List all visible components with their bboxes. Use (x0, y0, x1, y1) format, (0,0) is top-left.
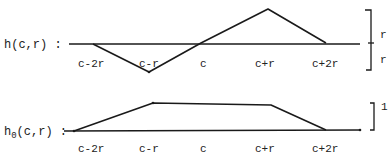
h0-tick-c: c (200, 143, 207, 155)
h0-baseline (64, 130, 360, 131)
h0-tick-c+2r: c+2r (312, 143, 338, 155)
h0-tick-c+r: c+r (255, 143, 275, 155)
diagram-canvas: h(c,r) : c-2r c-r c c+r c+2r r r h0(c,r)… (0, 0, 391, 156)
h-tick-c-r: c-r (139, 58, 159, 70)
h-tick-c+2r: c+2r (312, 58, 338, 70)
h-tick-c-2r: c-2r (78, 58, 104, 70)
h0-tick-c-r: c-r (139, 143, 159, 155)
h0-tick-c-2r: c-2r (78, 143, 104, 155)
h0-end-point (359, 129, 362, 132)
h-min-point (148, 71, 151, 74)
h0-scale-label: 1 (381, 101, 388, 113)
h0-plateau-start (152, 102, 155, 105)
function-h0: h0(c,r) : c-2r c-r c c+r c+2r 1 (4, 101, 388, 155)
function-h-label: h(c,r) : (4, 38, 62, 52)
h-tick-c+r: c+r (255, 58, 275, 70)
h-scale-bracket (365, 10, 371, 70)
h0-scale-bracket (370, 103, 374, 130)
h0-start-point (73, 130, 76, 133)
function-h: h(c,r) : c-2r c-r c c+r c+2r r r (4, 9, 387, 73)
h-curve (93, 9, 326, 72)
h-scale-label-top: r (380, 29, 387, 41)
function-h0-label: h0(c,r) : (4, 125, 67, 141)
h-tick-c: c (200, 58, 207, 70)
h-scale-label-bottom: r (380, 54, 387, 66)
h0-curve (74, 103, 326, 131)
